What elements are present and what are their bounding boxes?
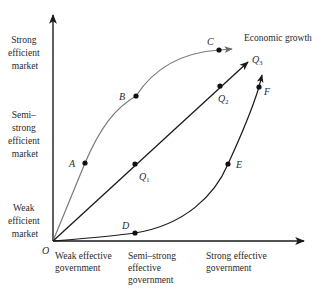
point-b [133,93,138,98]
label-f: F [263,86,271,97]
x-axis-labels: Weak effective government Semi–strong ef… [55,251,269,285]
point-f [256,84,261,89]
label-e: E [235,159,242,170]
point-d [132,230,137,235]
point-c [216,47,221,52]
efficiency-growth-diagram: A B C D E F Q1 Q2 Q3 Economic growth O S… [0,0,325,299]
x-label-strong: Strong effective government [206,251,269,273]
point-q1 [132,161,137,166]
label-q3: Q3 [252,54,262,66]
point-a [82,160,87,165]
label-d: D [121,220,130,231]
label-q2: Q2 [218,93,228,105]
point-e [225,161,230,166]
label-a: A [68,158,76,169]
y-label-strong: Strong efficient market [8,35,42,71]
x-label-weak: Weak effective government [55,251,114,273]
y-label-semi-strong: Semi– strong efficient market [8,110,42,159]
label-q1: Q1 [139,171,149,183]
y-axis-labels: Strong efficient market Semi– strong eff… [8,35,42,239]
y-label-weak: Weak efficient market [8,203,42,239]
origin-label: O [42,245,49,256]
diagonal-line-oq [53,62,248,241]
point-q2 [217,83,222,88]
label-b: B [119,91,125,102]
label-c: C [207,36,214,47]
economic-growth-label: Economic growth [244,33,312,43]
points [82,47,261,235]
x-label-semi-strong: Semi–strong effective government [128,251,178,285]
lower-curve-odef [53,75,262,241]
upper-curve-oabc [53,49,232,241]
